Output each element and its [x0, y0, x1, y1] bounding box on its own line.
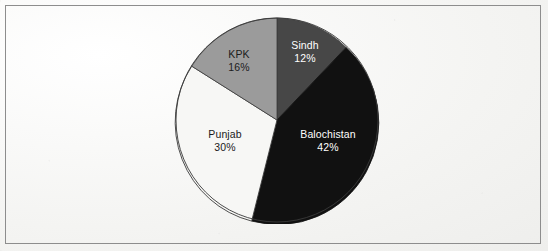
pie-label-balochistan: Balochistan 42% — [283, 128, 373, 154]
pie-label-kpk-name: KPK — [212, 48, 266, 61]
pie-label-sindh: Sindh 12% — [277, 39, 333, 65]
pie-label-punjab-name: Punjab — [192, 128, 258, 141]
pie-label-sindh-name: Sindh — [277, 39, 333, 52]
pie-label-balochistan-name: Balochistan — [283, 128, 373, 141]
pie-label-balochistan-value: 42% — [283, 141, 373, 154]
pie-chart: Sindh 12% KPK 16% Balochistan 42% Punjab… — [0, 0, 548, 251]
pie-label-kpk-value: 16% — [212, 61, 266, 74]
pie-label-punjab: Punjab 30% — [192, 128, 258, 154]
pie-label-kpk: KPK 16% — [212, 48, 266, 74]
page-root: Sindh 12% KPK 16% Balochistan 42% Punjab… — [0, 0, 548, 251]
pie-label-punjab-value: 30% — [192, 141, 258, 154]
pie-label-sindh-value: 12% — [277, 52, 333, 65]
